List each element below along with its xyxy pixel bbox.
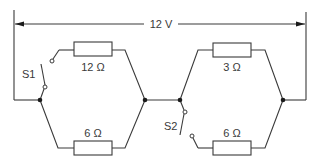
resistor-r3 (213, 43, 251, 57)
junction-dot (178, 98, 183, 103)
resistor-r1-label: 12 Ω (81, 61, 105, 73)
resistor-r2 (74, 141, 112, 155)
resistor-r2-label: 6 Ω (84, 127, 101, 139)
voltage-label: 12 V (150, 18, 173, 30)
r3-left-wire (180, 50, 213, 100)
junction-dot (38, 98, 43, 103)
r4-right-wire (251, 100, 283, 148)
r3-right-wire (251, 50, 283, 100)
switch-s2 (180, 100, 213, 148)
junction-dot (281, 98, 286, 103)
r1-right-wire (112, 50, 145, 100)
resistor-r4-label: 6 Ω (223, 127, 240, 139)
switch-s2-label: S2 (164, 120, 177, 132)
resistor-r4 (213, 141, 251, 155)
r2-left-wire (40, 100, 74, 148)
junction-dot (143, 98, 148, 103)
r2-right-wire (112, 100, 145, 148)
switch-s1-label: S1 (22, 68, 35, 80)
resistor-r1 (74, 42, 112, 56)
circuit-diagram: 12 V S1 12 Ω 6 Ω 3 Ω S2 6 Ω (0, 0, 318, 166)
switch-s1 (40, 50, 74, 100)
resistor-r3-label: 3 Ω (223, 61, 240, 73)
